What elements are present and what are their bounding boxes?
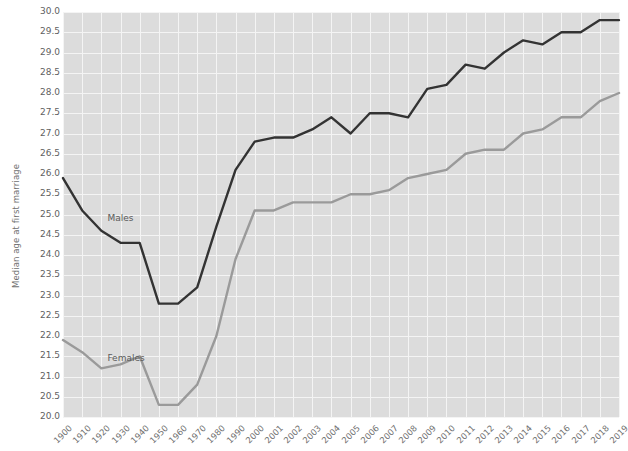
x-tick-1980: 1980 <box>205 423 227 445</box>
gridline-horizontal <box>63 417 619 418</box>
x-tick-2016: 2016 <box>550 423 572 445</box>
x-tick-2012: 2012 <box>473 423 495 445</box>
x-tick-2007: 2007 <box>378 423 400 445</box>
x-tick-2019: 2019 <box>608 423 628 445</box>
x-tick-2002: 2002 <box>282 423 304 445</box>
x-tick-2013: 2013 <box>493 423 515 445</box>
x-tick-2003: 2003 <box>301 423 323 445</box>
x-tick-2000: 2000 <box>243 423 265 445</box>
gridline-vertical <box>619 12 620 417</box>
x-tick-1990: 1990 <box>224 423 246 445</box>
x-tick-2018: 2018 <box>589 423 611 445</box>
line-males <box>63 20 619 304</box>
x-tick-1940: 1940 <box>128 423 150 445</box>
x-tick-1930: 1930 <box>109 423 131 445</box>
x-tick-1900: 1900 <box>52 423 74 445</box>
x-tick-2014: 2014 <box>512 423 534 445</box>
x-tick-1970: 1970 <box>186 423 208 445</box>
x-tick-2010: 2010 <box>435 423 457 445</box>
x-tick-2004: 2004 <box>320 423 342 445</box>
x-tick-1920: 1920 <box>90 423 112 445</box>
line-females <box>63 93 619 405</box>
x-tick-2017: 2017 <box>569 423 591 445</box>
x-tick-2009: 2009 <box>416 423 438 445</box>
chart-root: Median age at first marriage 30.029.529.… <box>0 0 628 451</box>
x-tick-2006: 2006 <box>358 423 380 445</box>
x-tick-2005: 2005 <box>339 423 361 445</box>
series-lines <box>63 12 619 417</box>
x-tick-2008: 2008 <box>397 423 419 445</box>
series-label-males: Males <box>107 213 133 223</box>
x-tick-2001: 2001 <box>263 423 285 445</box>
x-tick-1960: 1960 <box>167 423 189 445</box>
x-tick-2015: 2015 <box>531 423 553 445</box>
plot-background <box>63 12 619 417</box>
x-tick-1910: 1910 <box>71 423 93 445</box>
x-tick-2011: 2011 <box>454 423 476 445</box>
series-label-females: Females <box>107 353 144 363</box>
x-tick-1950: 1950 <box>148 423 170 445</box>
plot-area: MalesFemales <box>63 12 619 417</box>
